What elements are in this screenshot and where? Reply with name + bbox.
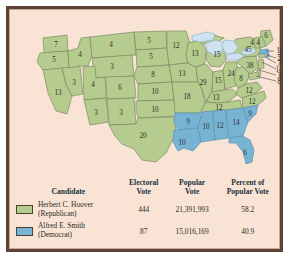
table-header-row: Candidate Electoral Vote Popular Vote Pe… [15,178,277,199]
svg-text:12: 12 [215,104,223,112]
svg-text:3: 3 [94,109,98,117]
candidate-party: (Republican) [38,210,93,219]
svg-text:5: 5 [149,53,153,61]
svg-text:3: 3 [72,79,76,87]
svg-text:12: 12 [172,42,180,50]
svg-text:14: 14 [232,119,240,127]
united-states-map[interactable]: .st{stroke:#7b8a63;stroke-width:0.7;} .r… [10,10,281,182]
percent-popular-vote-value: 58.2 [219,199,277,220]
figure-frame-inner: .st{stroke:#7b8a63;stroke-width:0.7;} .r… [9,9,280,249]
svg-text:20: 20 [139,132,147,140]
svg-text:18: 18 [183,93,191,101]
header-electoral-vote-line2: Vote [136,187,150,196]
svg-text:5: 5 [52,56,56,64]
candidate-name: Herbert C. Hoover [38,200,93,209]
svg-text:4: 4 [256,39,260,47]
svg-text:10: 10 [202,123,210,131]
electoral-vote-value: 87 [122,220,166,241]
svg-text:13: 13 [191,50,199,58]
svg-text:29: 29 [199,79,207,87]
election-map-figure: .st{stroke:#7b8a63;stroke-width:0.7;} .r… [0,0,289,265]
svg-text:24: 24 [227,70,235,78]
header-percent-line2: Popular Vote [227,187,269,196]
svg-text:7: 7 [54,41,58,49]
electoral-vote-value: 444 [122,199,166,220]
legend-swatch-democrat [16,227,33,236]
svg-text:13: 13 [212,94,220,102]
svg-text:38: 38 [246,62,254,70]
percent-popular-vote-value: 40.9 [219,220,277,241]
svg-text:8: 8 [151,71,155,79]
svg-text:15: 15 [213,51,221,59]
svg-text:15: 15 [214,77,222,85]
candidate-cell-hoover: Herbert C. Hoover (Republican) [15,199,122,220]
election-results-table: Candidate Electoral Vote Popular Vote Pe… [15,178,277,242]
popular-vote-value: 21,391,993 [166,199,219,220]
svg-text:45: 45 [244,46,252,54]
svg-text:12: 12 [248,98,256,106]
svg-text:4: 4 [78,51,82,59]
svg-text:9: 9 [186,118,190,126]
candidate-cell-smith: Alfred E. Smith (Democrat) [15,220,122,241]
header-popular-vote-line2: Vote [185,187,199,196]
svg-text:5: 5 [147,37,151,45]
candidate-name: Alfred E. Smith [38,221,85,230]
table-row: Herbert C. Hoover (Republican) 444 21,39… [15,199,277,220]
svg-text:6: 6 [243,149,247,157]
svg-text:10: 10 [178,139,186,147]
results-table-area: Candidate Electoral Vote Popular Vote Pe… [10,178,281,252]
svg-text:3: 3 [119,109,123,117]
candidate-party: (Democrat) [38,231,85,240]
svg-text:4: 4 [91,81,95,89]
map-area: .st{stroke:#7b8a63;stroke-width:0.7;} .r… [10,10,281,182]
header-electoral-vote: Electoral Vote [122,178,166,199]
svg-text:12: 12 [245,87,253,95]
svg-text:4: 4 [250,39,254,47]
svg-text:12: 12 [216,122,224,130]
svg-text:9: 9 [248,110,252,118]
svg-text:13: 13 [178,70,186,78]
svg-text:8: 8 [277,78,281,86]
svg-text:6: 6 [118,84,122,92]
svg-text:13: 13 [54,89,62,97]
legend-swatch-republican [16,205,33,214]
svg-text:8: 8 [239,75,243,83]
svg-text:3: 3 [110,63,114,71]
header-popular-vote: Popular Vote [166,178,219,199]
svg-text:6: 6 [264,32,268,40]
header-percent-popular-vote: Percent of Popular Vote [219,178,277,199]
figure-frame: .st{stroke:#7b8a63;stroke-width:0.7;} .r… [6,6,283,252]
svg-text:10: 10 [151,106,159,114]
svg-text:10: 10 [151,88,159,96]
popular-vote-value: 15,016,169 [166,220,219,241]
table-row: Alfred E. Smith (Democrat) 87 15,016,169… [15,220,277,241]
header-candidate: Candidate [15,178,122,199]
svg-text:4: 4 [109,41,113,49]
